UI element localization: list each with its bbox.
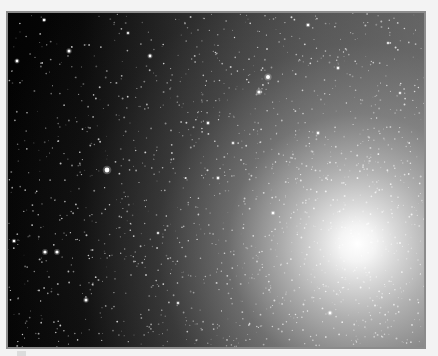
page xyxy=(0,0,438,356)
galaxy-photo-frame xyxy=(6,11,426,349)
star-field xyxy=(8,13,424,347)
frame-tab xyxy=(17,351,26,356)
